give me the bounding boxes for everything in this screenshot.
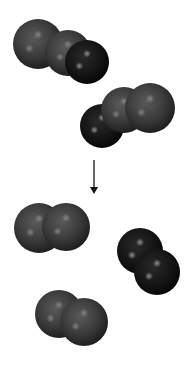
highlight-glint xyxy=(53,227,62,236)
product-molecule xyxy=(117,228,180,295)
reactant-molecule xyxy=(13,19,109,84)
highlight-glint xyxy=(83,50,91,58)
highlight-glint xyxy=(145,272,153,280)
highlight-glint xyxy=(146,94,155,103)
highlight-glint xyxy=(71,322,80,331)
highlight-glint xyxy=(62,214,71,223)
highlight-glint xyxy=(112,110,120,118)
highlight-glint xyxy=(56,53,64,61)
highlight-glint xyxy=(128,251,136,259)
product-molecule xyxy=(14,203,90,253)
highlight-glint xyxy=(34,30,43,39)
highlight-glint xyxy=(137,108,146,117)
product-molecule xyxy=(35,290,108,346)
highlight-glint xyxy=(55,301,64,310)
dark-atom xyxy=(65,40,109,84)
highlight-glint xyxy=(136,238,144,246)
highlight-glint xyxy=(153,259,161,267)
dark-atom xyxy=(134,249,180,295)
highlight-glint xyxy=(90,126,98,134)
highlight-glint xyxy=(80,309,89,318)
highlight-glint xyxy=(46,314,55,323)
highlight-glint xyxy=(75,62,83,70)
molecules-layer xyxy=(13,19,180,346)
reactant-molecule xyxy=(80,83,175,148)
gray-atom xyxy=(125,83,175,133)
gray-atom xyxy=(42,203,90,251)
gray-atom xyxy=(60,298,108,346)
highlight-glint xyxy=(35,214,44,223)
highlight-glint xyxy=(25,44,34,53)
reaction-arrow xyxy=(90,160,98,194)
arrow-down-icon xyxy=(90,187,98,194)
reaction-diagram xyxy=(0,0,196,370)
highlight-glint xyxy=(26,228,35,237)
